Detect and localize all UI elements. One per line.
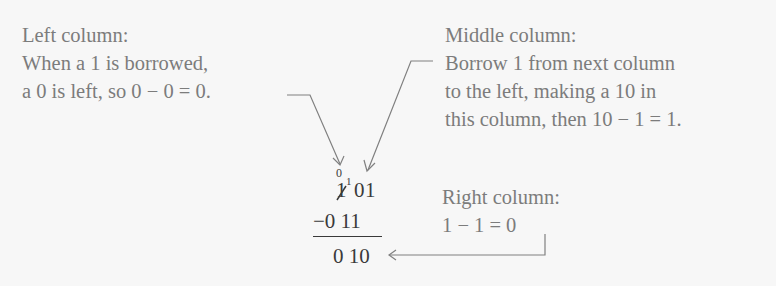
left-column-arrow-icon [287, 95, 340, 164]
arrows [0, 0, 776, 286]
middle-column-arrow-icon [368, 61, 433, 170]
right-column-arrow-icon [389, 234, 545, 255]
